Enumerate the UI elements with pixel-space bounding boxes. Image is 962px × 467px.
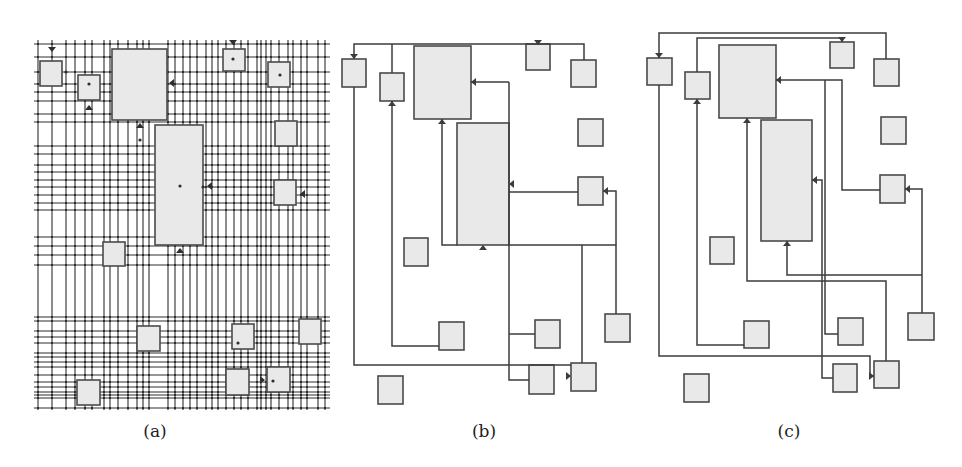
pin-dot (138, 138, 141, 141)
circuit-block (267, 367, 290, 392)
circuit-block (719, 45, 776, 118)
circuit-block (535, 320, 560, 348)
circuit-block (881, 117, 906, 144)
circuit-block (380, 73, 404, 101)
pin-dot (87, 82, 90, 85)
circuit-block (647, 58, 672, 85)
arrow-head-icon (48, 47, 56, 52)
circuit-block (744, 321, 769, 348)
circuit-block (908, 313, 934, 340)
circuit-block (78, 75, 100, 100)
routed-wire (392, 101, 439, 346)
arrow-head-icon (260, 376, 265, 384)
routed-wire (812, 180, 833, 378)
panel-a (34, 40, 330, 410)
circuit-block (529, 365, 554, 394)
caption-a: (a) (143, 421, 166, 441)
circuit-block (880, 175, 905, 203)
routed-wire (825, 80, 838, 334)
arrow-head-icon (207, 182, 212, 190)
pin-dot (231, 57, 234, 60)
panel-b (342, 40, 630, 404)
circuit-block (684, 374, 709, 402)
routed-wire (787, 241, 922, 275)
routed-wire (603, 191, 616, 245)
arrow-head-icon (169, 79, 174, 87)
routed-wire (697, 99, 744, 345)
circuit-block (342, 59, 366, 87)
routing-figure (0, 0, 962, 467)
circuit-block (761, 120, 812, 241)
circuit-block (112, 49, 167, 120)
circuit-block (571, 363, 596, 391)
circuit-block (457, 123, 509, 245)
caption-b: (b) (472, 421, 496, 441)
pin-dot (64, 70, 67, 73)
circuit-block (526, 44, 550, 70)
circuit-block (685, 72, 710, 99)
circuit-block (874, 59, 899, 86)
circuit-block (404, 238, 428, 266)
pin-dot (201, 185, 204, 188)
routed-wire (905, 189, 922, 313)
circuit-block (274, 180, 296, 205)
circuit-block (414, 46, 471, 119)
circuit-block (378, 376, 403, 404)
circuit-block (710, 237, 734, 264)
circuit-block (830, 42, 854, 68)
panel-c (647, 33, 934, 402)
pin-dot (236, 341, 239, 344)
routed-wire (509, 245, 529, 380)
circuit-block (578, 119, 603, 146)
circuit-block (605, 314, 630, 342)
circuit-block (226, 369, 249, 395)
circuit-block (578, 177, 603, 205)
pin-dot (271, 379, 274, 382)
pin-dot (278, 73, 281, 76)
circuit-block (299, 319, 321, 344)
circuit-block (103, 242, 125, 266)
circuit-block (874, 361, 899, 388)
circuit-block (571, 60, 596, 87)
circuit-block (439, 322, 464, 350)
circuit-block (40, 61, 62, 86)
circuit-block (232, 324, 254, 349)
routed-wire (442, 119, 457, 245)
circuit-block (77, 380, 100, 405)
pin-dot (178, 184, 181, 187)
caption-c: (c) (778, 421, 801, 441)
circuit-block (833, 364, 857, 392)
circuit-block (275, 121, 297, 146)
circuit-block (838, 318, 863, 345)
circuit-block (137, 326, 160, 351)
